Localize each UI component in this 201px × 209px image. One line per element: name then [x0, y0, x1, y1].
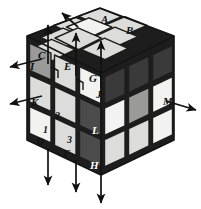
- label-3: 3: [67, 134, 72, 145]
- label-B: B: [126, 25, 133, 36]
- label-2: 2: [55, 110, 60, 121]
- label-E: E: [64, 61, 71, 72]
- label-K: K: [31, 97, 38, 108]
- label-C: C: [38, 50, 45, 61]
- label-1: 1: [43, 124, 48, 135]
- label-M: M: [163, 96, 173, 107]
- label-H: H: [90, 160, 99, 171]
- label-F: F: [63, 148, 70, 159]
- label-L: L: [92, 125, 99, 136]
- label-G: G: [89, 73, 97, 84]
- label-A: A: [101, 14, 108, 25]
- label-J: J: [96, 89, 102, 100]
- label-I: I: [30, 61, 34, 72]
- label-D: D: [36, 136, 44, 147]
- cube-diagram-figure: A B C I E G J K M 2 1 L D 3 F H: [0, 0, 201, 209]
